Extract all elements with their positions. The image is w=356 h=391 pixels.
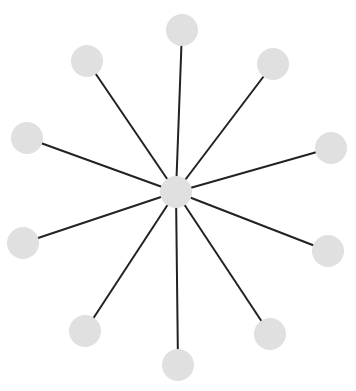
edge-center-to-n-left-upper <box>27 138 176 192</box>
leaf-node-n-bottom <box>162 349 194 381</box>
leaf-node-n-top-right <box>257 48 289 80</box>
leaf-node-n-bottom-left <box>69 315 101 347</box>
hub-node <box>160 176 192 208</box>
edge-center-to-n-bottom-left <box>85 192 176 331</box>
edge-center-to-n-top <box>176 30 182 192</box>
leaf-node-n-top <box>166 14 198 46</box>
edge-center-to-n-right-lower <box>176 192 328 251</box>
leaf-node-n-right-lower <box>312 235 344 267</box>
edge-center-to-n-top-right <box>176 64 273 192</box>
edge-center-to-n-bottom <box>176 192 178 365</box>
leaf-node-n-bottom-right <box>254 318 286 350</box>
edge-center-to-n-right-upper <box>176 148 331 192</box>
edge-center-to-n-left-lower <box>23 192 176 243</box>
edge-center-to-n-bottom-right <box>176 192 270 334</box>
leaf-node-n-left-upper <box>11 122 43 154</box>
leaf-node-n-right-upper <box>315 132 347 164</box>
edge-center-to-n-top-left <box>87 61 176 192</box>
leaf-node-n-left-lower <box>7 227 39 259</box>
star-graph-diagram <box>0 0 356 391</box>
leaf-node-n-top-left <box>71 45 103 77</box>
